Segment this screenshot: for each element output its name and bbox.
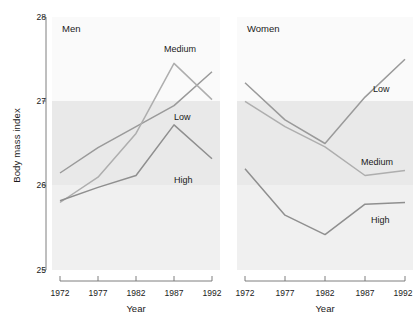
panel-women-lines [237, 17, 413, 270]
y-axis-title: Body mass index [11, 81, 22, 211]
x-tick-women-1992: 1992 [394, 288, 413, 298]
line-men-high [60, 125, 212, 201]
panel-men-title: Men [62, 23, 80, 34]
line-women-low [245, 59, 405, 143]
series-label-men-low: Low [174, 112, 191, 122]
panel-men: Men Medium Low High [52, 17, 220, 270]
x-tick-men-1982: 1982 [127, 288, 146, 298]
x-tick-men-1977: 1977 [89, 288, 108, 298]
x-tick-women-1982: 1982 [316, 288, 335, 298]
panel-men-lines [52, 17, 220, 270]
x-tick-women-1972: 1972 [236, 288, 255, 298]
x-tick-women-1987: 1987 [356, 288, 375, 298]
y-tick-25: 25 [37, 266, 46, 275]
x-tick-women-1977: 1977 [276, 288, 295, 298]
y-axis-ticks: 28 27 26 25 [22, 0, 46, 324]
series-label-men-medium: Medium [164, 44, 196, 54]
x-tick-men-1972: 1972 [51, 288, 70, 298]
chart-figure: Body mass index 28 27 26 25 [0, 0, 419, 324]
x-axis-title-men: Year [126, 303, 145, 314]
series-label-women-low: Low [373, 84, 390, 94]
series-label-men-high: High [174, 175, 193, 185]
y-tick-27: 27 [37, 97, 46, 106]
y-tick-28: 28 [37, 13, 46, 22]
line-men-low [60, 72, 212, 173]
panel-women-title: Women [247, 23, 280, 34]
y-tick-26: 26 [37, 181, 46, 190]
series-label-women-high: High [371, 215, 390, 225]
panel-women: Women Low Medium High [237, 17, 413, 270]
x-tick-men-1992: 1992 [203, 288, 222, 298]
x-axis-title-women: Year [315, 303, 334, 314]
x-tick-men-1987: 1987 [165, 288, 184, 298]
series-label-women-medium: Medium [361, 157, 393, 167]
